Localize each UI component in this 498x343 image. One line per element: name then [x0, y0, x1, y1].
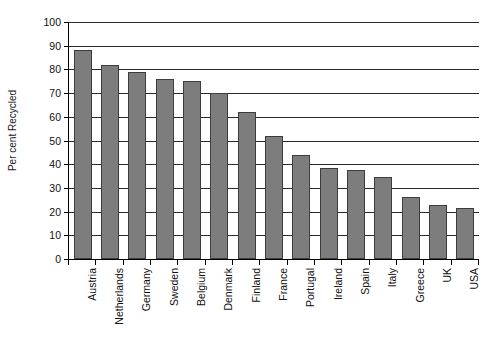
- x-axis-tick-label: Ireland: [332, 236, 344, 268]
- y-axis-tick-label: 40: [49, 158, 61, 170]
- x-axis-tick-label-text: Greece: [414, 268, 426, 302]
- x-axis-tick-label: Netherlands: [113, 211, 125, 268]
- x-axis-tick-label-text: Italy: [386, 268, 398, 287]
- bar-slot: [452, 22, 479, 259]
- y-axis-tick-label: 50: [49, 135, 61, 147]
- x-axis-tick-label-text: Finland: [250, 268, 262, 302]
- x-axis-tick-label-text: Sweden: [168, 268, 180, 306]
- y-axis-tick-label: 30: [49, 182, 61, 194]
- bars-layer: [69, 22, 479, 259]
- x-axis-tick-label-text: USA: [468, 268, 480, 290]
- y-axis-tick-label: 20: [49, 206, 61, 218]
- bar-slot: [233, 22, 260, 259]
- bar-slot: [424, 22, 451, 259]
- x-axis-tick-label: USA: [468, 246, 480, 268]
- x-axis-tick-label: Spain: [359, 241, 371, 268]
- x-axis-tick-label-text: Denmark: [222, 268, 234, 311]
- y-axis-tick-label: 100: [43, 16, 61, 28]
- plot-area: 0102030405060708090100: [68, 22, 479, 260]
- x-axis-tick-label-text: Ireland: [332, 268, 344, 300]
- x-axis-tick-label: Sweden: [168, 230, 180, 268]
- y-axis-tick-label: 0: [55, 253, 61, 265]
- x-axis-tick-label-text: UK: [441, 268, 453, 283]
- x-axis-tick-label: UK: [441, 253, 453, 268]
- x-axis-tick: [68, 260, 69, 265]
- x-axis-labels: AustriaNetherlandsGermanySwedenBelgiumDe…: [68, 268, 478, 343]
- x-axis-tick-label-text: Portugal: [304, 268, 316, 307]
- y-axis-tick-label: 80: [49, 63, 61, 75]
- y-axis-title: Per cent Recycled: [0, 0, 26, 260]
- bar-slot: [151, 22, 178, 259]
- bar-slot: [260, 22, 287, 259]
- x-axis-tick-label: France: [277, 235, 289, 268]
- bar-slot: [178, 22, 205, 259]
- x-axis-tick-label: Germany: [140, 225, 152, 268]
- x-axis-tick-label-text: France: [277, 268, 289, 301]
- x-axis-tick-label: Denmark: [222, 225, 234, 268]
- bar-slot: [206, 22, 233, 259]
- x-axis-tick-label: Portugal: [304, 229, 316, 268]
- bar-chart: Per cent Recycled 0102030405060708090100…: [0, 0, 498, 343]
- bar: [374, 177, 392, 259]
- bar-slot: [315, 22, 342, 259]
- y-axis-tick-label: 10: [49, 229, 61, 241]
- bar-slot: [124, 22, 151, 259]
- x-axis-tick-label: Austria: [86, 235, 98, 268]
- x-axis-tick-label-text: Belgium: [195, 268, 207, 306]
- x-axis-tick-label-text: Netherlands: [113, 268, 125, 325]
- bar: [74, 50, 92, 259]
- x-axis-tick-label: Belgium: [195, 230, 207, 268]
- bar: [429, 205, 447, 260]
- x-axis-tick-label-text: Germany: [140, 268, 152, 311]
- y-axis-title-label: Per cent Recycled: [8, 89, 19, 170]
- bar-slot: [370, 22, 397, 259]
- x-axis-tick-label: Italy: [386, 249, 398, 268]
- x-axis-tick-label: Greece: [414, 234, 426, 268]
- x-axis-tick-label-text: Austria: [86, 268, 98, 301]
- bar-slot: [288, 22, 315, 259]
- bar-slot: [69, 22, 96, 259]
- y-axis-tick-label: 60: [49, 111, 61, 123]
- y-axis-tick-label: 90: [49, 40, 61, 52]
- y-axis-tick-label: 70: [49, 87, 61, 99]
- bar-slot: [342, 22, 369, 259]
- x-axis-tick-label: Finland: [250, 234, 262, 268]
- x-axis-tick-label-text: Spain: [359, 268, 371, 295]
- bar-slot: [397, 22, 424, 259]
